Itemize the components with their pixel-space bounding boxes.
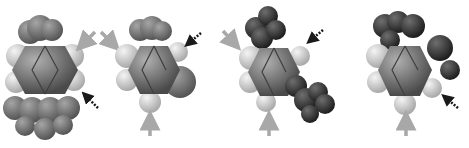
solid-arrow-4 (223, 31, 234, 43)
solid-arrow-2 (101, 32, 113, 44)
molecule-1 (3, 15, 85, 140)
molecule-2 (115, 16, 196, 113)
dotted-arrow-3 (311, 30, 323, 40)
dotted-arrow-4 (446, 98, 458, 108)
dotted-arrow-1 (86, 96, 98, 108)
molecular-models-figure (0, 0, 469, 148)
dotted-arrow-2 (189, 33, 201, 43)
solid-arrow-1 (83, 32, 95, 44)
molecule-3 (239, 6, 335, 123)
